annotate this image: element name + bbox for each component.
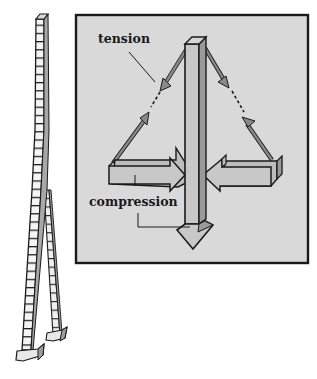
label-compression: compression: [89, 194, 178, 209]
tower: [16, 14, 67, 361]
tower-main-shaft: [16, 14, 49, 361]
force-diagram-panel: tension compression: [76, 15, 308, 263]
diagram-canvas: tension compression: [0, 0, 317, 379]
label-tension: tension: [98, 31, 150, 46]
tower-rear-leg: [44, 190, 67, 341]
